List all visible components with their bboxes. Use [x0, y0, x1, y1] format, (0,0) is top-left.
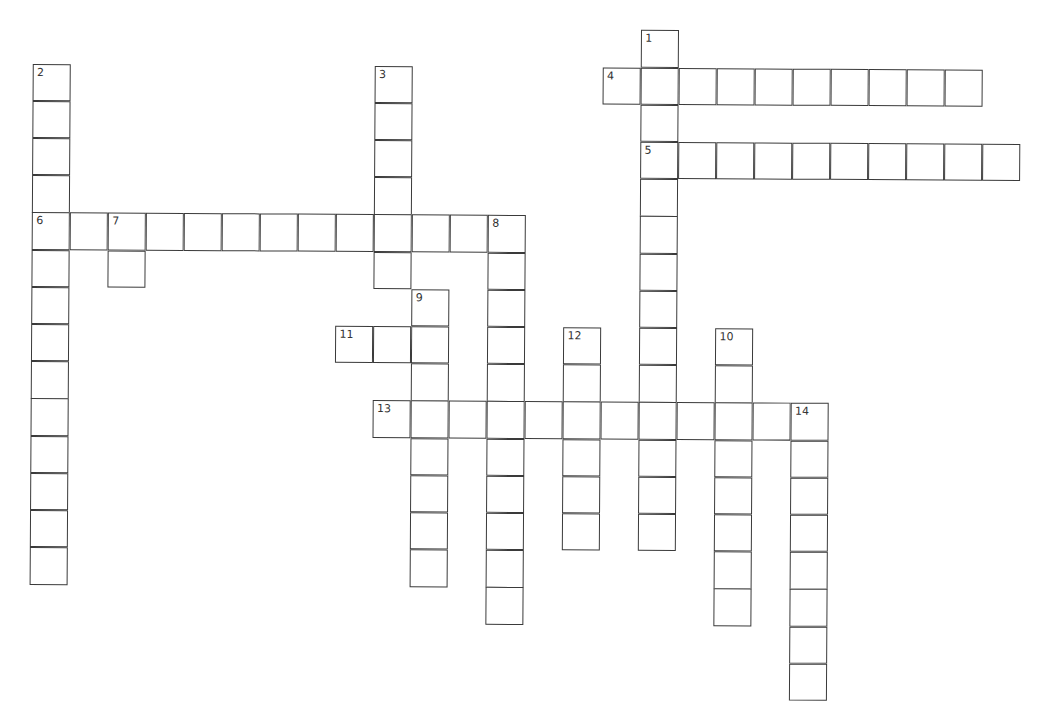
crossword-cell[interactable] [982, 144, 1020, 182]
crossword-cell[interactable] [638, 514, 676, 552]
crossword-cell[interactable] [792, 143, 830, 181]
crossword-cell[interactable] [790, 515, 828, 553]
crossword-cell[interactable] [868, 143, 906, 181]
crossword-cell[interactable] [184, 213, 222, 251]
crossword-cell[interactable] [30, 510, 68, 548]
crossword-cell[interactable] [374, 177, 412, 215]
crossword-cell[interactable] [31, 361, 69, 399]
crossword-cell[interactable] [486, 476, 524, 514]
crossword-cell[interactable] [790, 552, 828, 590]
crossword-cell[interactable] [30, 547, 68, 585]
crossword-cell[interactable] [374, 140, 412, 178]
crossword-cell[interactable] [486, 513, 524, 551]
crossword-cell[interactable] [789, 626, 827, 664]
crossword-cell[interactable] [717, 68, 755, 106]
crossword-cell[interactable] [70, 213, 108, 251]
crossword-cell[interactable] [679, 67, 717, 105]
crossword-cell[interactable] [374, 214, 412, 252]
crossword-cell[interactable] [30, 473, 68, 511]
crossword-cell[interactable] [714, 551, 752, 589]
crossword-cell[interactable] [754, 142, 792, 180]
crossword-cell[interactable] [906, 143, 944, 181]
crossword-cell[interactable] [298, 214, 336, 252]
crossword-cell[interactable] [563, 402, 601, 440]
crossword-cell[interactable] [714, 477, 752, 515]
crossword-cell[interactable]: 7 [108, 213, 146, 251]
crossword-cell[interactable] [641, 104, 679, 142]
crossword-cell[interactable] [639, 365, 677, 403]
crossword-cell[interactable] [714, 589, 752, 627]
crossword-cell[interactable] [486, 587, 524, 625]
crossword-cell[interactable] [374, 252, 412, 290]
crossword-cell[interactable] [640, 216, 678, 254]
crossword-cell[interactable] [715, 365, 753, 403]
crossword-cell[interactable] [640, 253, 678, 291]
crossword-cell[interactable]: 3 [375, 66, 413, 104]
crossword-cell[interactable] [640, 179, 678, 217]
crossword-cell[interactable]: 8 [488, 215, 526, 253]
crossword-cell[interactable] [563, 364, 601, 402]
crossword-cell[interactable] [488, 290, 526, 328]
crossword-cell[interactable] [755, 68, 793, 106]
crossword-cell[interactable]: 2 [33, 64, 71, 102]
crossword-cell[interactable] [411, 363, 449, 401]
crossword-cell[interactable] [32, 138, 70, 176]
crossword-cell[interactable] [789, 663, 827, 701]
crossword-cell[interactable] [830, 143, 868, 181]
crossword-cell[interactable] [486, 550, 524, 588]
crossword-cell[interactable] [869, 69, 907, 107]
crossword-cell[interactable] [562, 476, 600, 514]
crossword-cell[interactable] [945, 69, 983, 107]
crossword-cell[interactable] [562, 513, 600, 551]
crossword-cell[interactable] [677, 402, 715, 440]
crossword-cell[interactable] [411, 438, 449, 476]
crossword-cell[interactable]: 11 [335, 326, 373, 364]
crossword-cell[interactable] [33, 101, 71, 139]
crossword-cell[interactable] [715, 403, 753, 441]
crossword-cell[interactable] [488, 252, 526, 290]
crossword-cell[interactable] [31, 398, 69, 436]
crossword-cell[interactable] [639, 328, 677, 366]
crossword-cell[interactable]: 13 [373, 400, 411, 438]
crossword-cell[interactable] [638, 476, 676, 514]
crossword-cell[interactable] [31, 436, 69, 474]
crossword-cell[interactable]: 9 [412, 289, 450, 327]
crossword-cell[interactable] [639, 439, 677, 477]
crossword-cell[interactable] [487, 438, 525, 476]
crossword-cell[interactable] [410, 475, 448, 513]
crossword-cell[interactable] [336, 214, 374, 252]
crossword-cell[interactable] [373, 326, 411, 364]
crossword-cell[interactable] [487, 401, 525, 439]
crossword-cell[interactable] [411, 326, 449, 364]
crossword-cell[interactable] [907, 69, 945, 107]
crossword-cell[interactable]: 14 [791, 403, 829, 441]
crossword-cell[interactable] [601, 402, 639, 440]
crossword-cell[interactable] [793, 68, 831, 106]
crossword-cell[interactable] [563, 439, 601, 477]
crossword-cell[interactable]: 1 [641, 30, 679, 68]
crossword-cell[interactable]: 10 [715, 328, 753, 366]
crossword-cell[interactable] [487, 364, 525, 402]
crossword-cell[interactable] [411, 401, 449, 439]
crossword-cell[interactable] [944, 144, 982, 182]
crossword-cell[interactable] [412, 215, 450, 253]
crossword-cell[interactable]: 12 [563, 327, 601, 365]
crossword-cell[interactable] [640, 290, 678, 328]
crossword-cell[interactable] [714, 514, 752, 552]
crossword-cell[interactable] [32, 175, 70, 213]
crossword-cell[interactable] [410, 512, 448, 550]
crossword-cell[interactable] [639, 402, 677, 440]
crossword-cell[interactable] [32, 250, 70, 288]
crossword-cell[interactable] [641, 67, 679, 105]
crossword-cell[interactable] [108, 250, 146, 288]
crossword-cell[interactable] [450, 215, 488, 253]
crossword-cell[interactable] [525, 401, 563, 439]
crossword-cell[interactable] [32, 287, 70, 325]
crossword-cell[interactable] [753, 403, 791, 441]
crossword-cell[interactable]: 6 [32, 212, 70, 250]
crossword-cell[interactable] [487, 327, 525, 365]
crossword-cell[interactable] [260, 214, 298, 252]
crossword-cell[interactable] [790, 477, 828, 515]
crossword-cell[interactable] [375, 103, 413, 141]
crossword-cell[interactable] [31, 324, 69, 362]
